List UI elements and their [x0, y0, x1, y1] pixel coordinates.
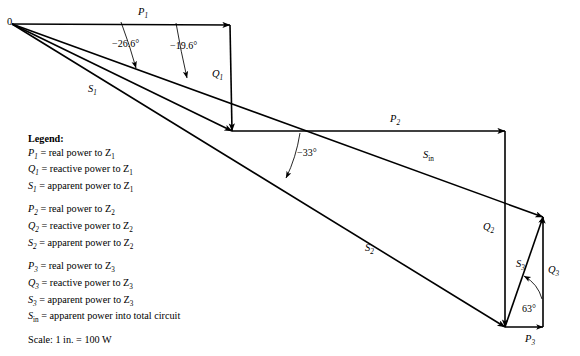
legend-desc-sub: 1 [130, 186, 134, 194]
angle-label-s1: −26.6° [112, 38, 139, 49]
vector-label-p3: P3 [525, 334, 535, 347]
legend-scale: Scale: 1 in. = 100 W [28, 334, 180, 347]
legend-item: P1 = real power to Z1 [28, 147, 180, 164]
legend-desc: = reactive power to Z [42, 220, 130, 231]
legend-desc-sub: 3 [130, 300, 134, 308]
vector-q1-line [230, 25, 232, 131]
q2-subscript: 2 [491, 227, 495, 235]
s2-subscript: 2 [370, 248, 374, 256]
legend-group-3: P3 = real power to Z3 Q3 = reactive powe… [28, 260, 180, 327]
legend-desc: = real power to Z [40, 260, 111, 271]
legend-sym-sub: 1 [34, 153, 38, 161]
vector-label-p2: P2 [390, 114, 400, 127]
vector-label-s3: S3 [516, 259, 525, 272]
legend-group-2: P2 = real power to Z2 Q2 = reactive powe… [28, 203, 180, 253]
legend-group-1: P1 = real power to Z1 Q1 = reactive powe… [28, 147, 180, 197]
angle-label-s3: 63° [522, 303, 536, 314]
legend-desc-sub: 3 [129, 283, 133, 291]
legend-desc-sub: 1 [129, 169, 133, 177]
angle-label-s2: −33° [297, 147, 317, 158]
angle-label-sin: −19.6° [170, 40, 197, 51]
legend-item: Q1 = reactive power to Z1 [28, 163, 180, 180]
vector-label-q3: Q3 [548, 265, 559, 278]
legend-title: Legend: [28, 133, 180, 146]
legend-sym-sub: in [33, 316, 39, 324]
legend-item: P3 = real power to Z3 [28, 260, 180, 277]
power-triangle-diagram: 0 P1 Q1 S1 P2 Q2 S2 P3 Q3 S3 Sin −26.6° … [0, 0, 580, 356]
legend-sym-sub: 1 [35, 169, 39, 177]
legend-sym-sub: 2 [33, 243, 37, 251]
legend-desc: = apparent power to Z [39, 294, 130, 305]
legend: Legend: P1 = real power to Z1 Q1 = react… [28, 133, 180, 346]
s3-subscript: 3 [521, 264, 525, 272]
vector-label-sin: Sin [423, 150, 434, 163]
legend-desc: = reactive power to Z [42, 277, 130, 288]
legend-desc: = apparent power into total circuit [41, 310, 180, 321]
s1-subscript: 1 [93, 89, 97, 97]
legend-sym-sub: 3 [33, 300, 37, 308]
p3-subscript: 3 [531, 339, 535, 347]
legend-spacer [28, 196, 180, 203]
legend-sym-sub: 3 [35, 283, 39, 291]
vector-p1-line [12, 24, 230, 25]
vector-label-p1: P1 [138, 7, 148, 20]
legend-item: S3 = apparent power to Z3 [28, 294, 180, 311]
q3-symbol: Q [548, 264, 556, 275]
vector-label-q1: Q1 [212, 69, 223, 82]
legend-item: Q3 = reactive power to Z3 [28, 277, 180, 294]
legend-desc: = real power to Z [40, 147, 111, 158]
vector-label-s2: S2 [365, 243, 374, 256]
p2-subscript: 2 [396, 119, 400, 127]
q1-subscript: 1 [220, 74, 224, 82]
legend-sym-sub: 2 [35, 226, 39, 234]
legend-item: Sin = apparent power into total circuit [28, 310, 180, 327]
legend-desc-sub: 2 [129, 226, 133, 234]
legend-desc-sub: 2 [111, 210, 115, 218]
legend-desc-sub: 1 [111, 153, 115, 161]
p1-subscript: 1 [144, 12, 148, 20]
legend-desc-sub: 2 [130, 243, 134, 251]
legend-desc: = apparent power to Z [39, 180, 130, 191]
q1-symbol: Q [212, 68, 220, 79]
legend-item: Q2 = reactive power to Z2 [28, 220, 180, 237]
legend-sym-sub: 1 [33, 186, 37, 194]
legend-desc: = reactive power to Z [42, 163, 130, 174]
legend-desc: = apparent power to Z [39, 237, 130, 248]
vector-label-q2: Q2 [483, 222, 494, 235]
legend-desc: = real power to Z [40, 203, 111, 214]
legend-spacer [28, 253, 180, 260]
sin-subscript: in [428, 155, 434, 163]
legend-desc-sub: 3 [111, 266, 115, 274]
legend-item: P2 = real power to Z2 [28, 203, 180, 220]
legend-item: S2 = apparent power to Z2 [28, 237, 180, 254]
origin-label: 0 [7, 17, 12, 28]
q2-symbol: Q [483, 221, 491, 232]
q3-subscript: 3 [556, 270, 560, 278]
legend-item: S1 = apparent power to Z1 [28, 180, 180, 197]
legend-sym-sub: 2 [34, 210, 38, 218]
vector-label-s1: S1 [88, 84, 97, 97]
legend-sym-sub: 3 [34, 266, 38, 274]
angle-arc-63 [524, 276, 542, 299]
